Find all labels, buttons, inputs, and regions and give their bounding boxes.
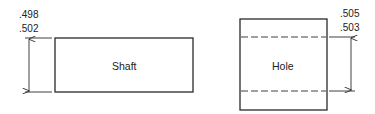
hole-label: Hole xyxy=(272,60,294,72)
fit-diagram xyxy=(0,0,375,114)
shaft-drawing xyxy=(25,38,193,92)
shaft-label: Shaft xyxy=(112,60,137,72)
hole-dimension-lower: .503 xyxy=(340,23,359,33)
shaft-dimension-lower: .502 xyxy=(19,24,38,34)
hole-dimension-upper: .505 xyxy=(340,9,359,19)
shaft-dimension-upper: .498 xyxy=(19,10,38,20)
hole-drawing xyxy=(240,19,355,110)
